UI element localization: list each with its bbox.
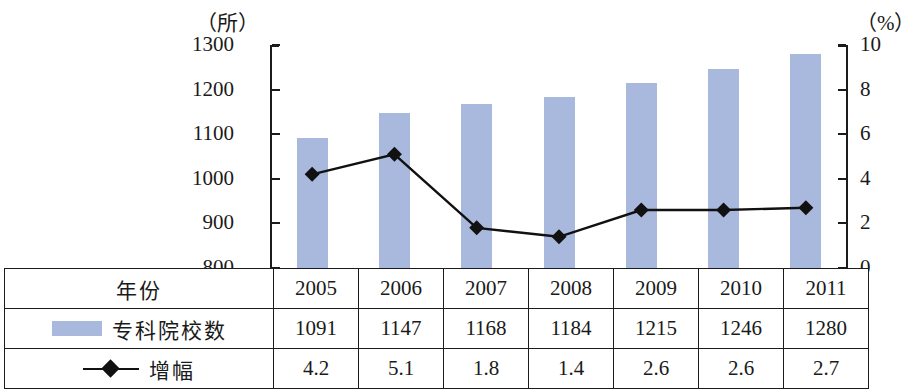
table-cell: 1246 — [699, 309, 784, 349]
table-cell: 2005 — [274, 269, 359, 309]
right-axis-tick-label: 10 — [860, 34, 881, 55]
table-row-label: 增幅 — [149, 354, 195, 384]
line-marker-diamond — [634, 203, 649, 218]
table-cell: 2.6 — [614, 349, 699, 389]
line-marker-diamond — [798, 200, 813, 215]
table-cell: 4.2 — [274, 349, 359, 389]
table-cell: 2.7 — [784, 349, 869, 389]
table-cell: 1147 — [359, 309, 444, 349]
left-axis-tick-label: 1200 — [192, 79, 234, 100]
table-cell: 1.4 — [529, 349, 614, 389]
right-axis-tick-label: 6 — [860, 123, 871, 144]
left-axis-tick-label: 1000 — [192, 168, 234, 189]
chart-figure: （所） （%） 1300120011001000900800 1086420 年… — [0, 0, 914, 392]
table-cell: 2008 — [529, 269, 614, 309]
line-marker-diamond — [552, 229, 567, 244]
right-axis-tick-label: 2 — [860, 212, 871, 233]
table-row-label: 专科院校数 — [112, 314, 227, 344]
left-axis-tick-label: 1300 — [192, 34, 234, 55]
line-marker-diamond — [305, 167, 320, 182]
table-row: 专科院校数1091114711681184121512461280 — [5, 309, 869, 349]
table-cell: 2010 — [699, 269, 784, 309]
table-row-header: 增幅 — [5, 349, 274, 389]
right-axis-tick-label: 4 — [860, 168, 871, 189]
table-cell: 1091 — [274, 309, 359, 349]
table-row-header: 专科院校数 — [5, 309, 274, 349]
table-cell: 1280 — [784, 309, 869, 349]
table-row-label: 年份 — [116, 274, 162, 304]
data-table: 年份2005200620072008200920102011专科院校数10911… — [4, 268, 869, 389]
table-cell: 1215 — [614, 309, 699, 349]
table-cell: 1.8 — [444, 349, 529, 389]
table-cell: 5.1 — [359, 349, 444, 389]
growth-rate-line-series — [270, 45, 848, 268]
table-cell: 2009 — [614, 269, 699, 309]
right-axis-tick-label: 8 — [860, 79, 871, 100]
table-row: 增幅4.25.11.81.42.62.62.7 — [5, 349, 869, 389]
left-axis-tick-label: 900 — [203, 212, 235, 233]
table-row: 年份2005200620072008200920102011 — [5, 269, 869, 309]
table-cell: 2011 — [784, 269, 869, 309]
legend-diamond-icon — [101, 359, 119, 377]
line-marker-diamond — [716, 203, 731, 218]
plot-area: 1300120011001000900800 1086420 — [270, 45, 848, 268]
legend-line-marker — [83, 362, 139, 376]
table-cell: 2.6 — [699, 349, 784, 389]
left-axis-tick-label: 1100 — [193, 123, 234, 144]
table-row-header: 年份 — [5, 269, 274, 309]
legend-bar-swatch — [52, 321, 102, 336]
table-cell: 1184 — [529, 309, 614, 349]
table-cell: 2006 — [359, 269, 444, 309]
table-cell: 2007 — [444, 269, 529, 309]
table-cell: 1168 — [444, 309, 529, 349]
